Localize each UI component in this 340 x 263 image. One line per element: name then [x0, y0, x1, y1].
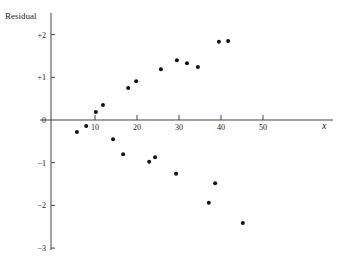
y-tick-label: +2: [37, 31, 46, 40]
data-point: [185, 61, 189, 65]
y-tick-label: −3: [37, 244, 46, 253]
data-point: [101, 103, 105, 107]
data-point: [134, 79, 138, 83]
data-point: [153, 155, 157, 159]
data-point: [75, 130, 79, 134]
data-point: [175, 58, 179, 62]
data-point: [207, 201, 211, 205]
x-tick-label: 20: [133, 123, 141, 132]
x-tick-label: 50: [259, 123, 267, 132]
y-tick-label: +1: [37, 73, 46, 82]
data-point: [217, 40, 221, 44]
data-point: [174, 172, 178, 176]
data-point: [121, 152, 125, 156]
data-point: [126, 86, 130, 90]
y-tick-label: −1: [37, 159, 46, 168]
y-tick-label: −2: [37, 201, 46, 210]
data-point: [213, 181, 217, 185]
x-tick-label: 40: [217, 123, 225, 132]
axis-ticks: 1020304050+2+10−1−2−3: [37, 31, 267, 254]
data-point: [196, 65, 200, 69]
data-point: [111, 137, 115, 141]
x-axis-title: x: [321, 120, 327, 131]
data-point: [147, 160, 151, 164]
data-point: [84, 124, 88, 128]
data-point: [159, 67, 163, 71]
y-tick-label: 0: [42, 116, 46, 125]
x-tick-label: 10: [91, 123, 99, 132]
x-tick-label: 30: [175, 123, 183, 132]
y-axis-title: Residual: [5, 11, 37, 21]
axes: [40, 13, 333, 250]
residual-scatter-plot: 1020304050+2+10−1−2−3 Residual x: [0, 0, 340, 263]
data-point: [94, 110, 98, 114]
data-point: [241, 221, 245, 225]
data-point: [226, 39, 230, 43]
